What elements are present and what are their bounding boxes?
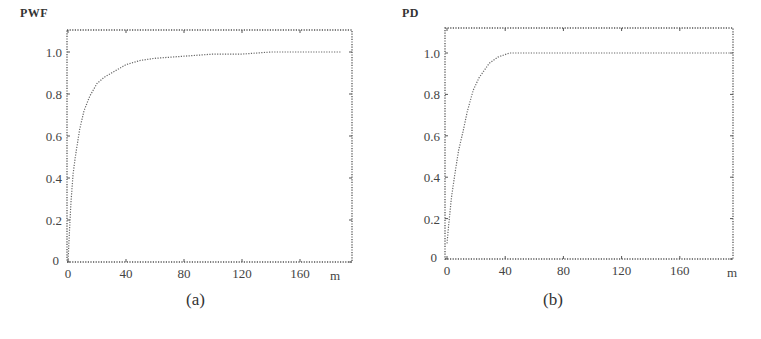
plot-frame: [67, 30, 352, 262]
y-tick-label: 0.6: [424, 129, 441, 144]
x-tick-label: 160: [670, 263, 690, 278]
x-tick-label: 40: [499, 263, 512, 278]
caption-b: (b): [543, 290, 563, 310]
chart-a: 00.20.40.60.81.004080120160m: [0, 0, 380, 339]
y-tick-label: 0: [431, 250, 438, 265]
series-line-pd: [447, 53, 731, 243]
x-axis-label: m: [727, 265, 737, 280]
y-tick-label: 0.2: [46, 213, 62, 228]
caption-a: (a): [186, 290, 205, 310]
x-tick-label: 40: [120, 266, 133, 281]
panel-b: PD 00.20.40.60.81.004080120160m (b): [380, 0, 760, 339]
x-tick-label: 80: [178, 266, 191, 281]
x-tick-label: 0: [65, 266, 72, 281]
x-tick-label: 160: [290, 266, 310, 281]
chart-b: 00.20.40.60.81.004080120160m: [380, 0, 761, 339]
panel-a: PWF 00.20.40.60.81.004080120160m (a): [0, 0, 380, 339]
x-tick-label: 120: [612, 263, 632, 278]
y-tick-label: 0.4: [46, 171, 63, 186]
y-tick-label: 0.2: [424, 212, 440, 227]
y-tick-label: 0: [53, 253, 60, 268]
plot-frame: [445, 28, 733, 259]
y-tick-label: 0.8: [424, 87, 440, 102]
y-tick-label: 0.4: [424, 170, 441, 185]
y-tick-label: 0.8: [46, 87, 62, 102]
series-line-pwf: [68, 52, 341, 262]
x-tick-label: 80: [557, 263, 570, 278]
x-tick-label: 0: [444, 263, 451, 278]
y-tick-label: 1.0: [424, 46, 440, 61]
x-tick-label: 120: [232, 266, 252, 281]
y-tick-label: 0.6: [46, 129, 63, 144]
x-axis-label: m: [330, 268, 340, 283]
y-tick-label: 1.0: [46, 45, 62, 60]
